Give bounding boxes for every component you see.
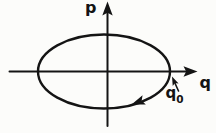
q0-label-base: q xyxy=(166,84,177,102)
q-axis-label: q xyxy=(200,73,211,92)
q0-label-subscript: 0 xyxy=(176,93,183,105)
q0-point-label: q0 xyxy=(166,84,184,105)
phase-space-diagram: p q q0 xyxy=(0,0,216,133)
p-axis-label: p xyxy=(85,0,96,17)
